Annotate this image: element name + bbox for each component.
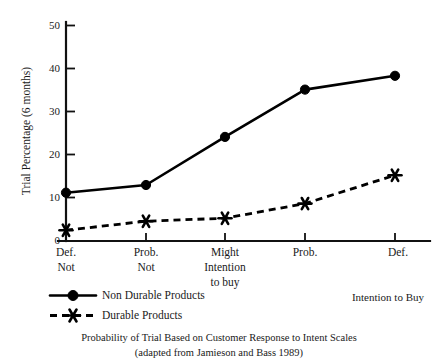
x-axis-ticks [66, 233, 395, 241]
y-tick-label-30: 30 [49, 105, 61, 117]
y-tick-label-50: 50 [49, 19, 61, 31]
caption-line-1: Probability of Trial Based on Customer R… [81, 332, 357, 343]
x-axis-title: Intention to Buy [352, 291, 425, 303]
y-tick-label-10: 10 [49, 191, 61, 203]
non-durable-line [66, 76, 395, 193]
y-axis-title: Trial Percentage (6 months) [20, 67, 33, 195]
series-durable-products [60, 170, 402, 236]
series-non-durable-products [61, 71, 399, 197]
non-durable-point-1 [141, 180, 150, 189]
chart-legend: Non Durable Products Durable Products [50, 289, 205, 322]
durable-point-2 [219, 213, 232, 224]
x-tick-label-4-line0: Def. [388, 246, 408, 258]
x-axis-tick-labels: Def. Not Prob. Not Might Intention to bu… [56, 246, 408, 289]
y-tick-label-20: 20 [49, 148, 61, 160]
non-durable-point-4 [390, 71, 399, 80]
legend-item-durable[interactable]: Durable Products [50, 309, 183, 322]
legend-marker-circle-icon [68, 291, 78, 301]
chart-figure: 50 40 30 20 10 0 Trial Percentage (6 mon… [0, 0, 437, 364]
x-tick-label-1-line1: Not [137, 261, 155, 273]
figure-caption: Probability of Trial Based on Customer R… [81, 332, 357, 359]
non-durable-point-0 [61, 188, 70, 197]
y-axis-group: 50 40 30 20 10 0 Trial Percentage (6 mon… [20, 19, 75, 246]
legend-label-durable: Durable Products [102, 309, 183, 321]
durable-point-4 [389, 170, 402, 181]
durable-line [66, 175, 395, 230]
x-tick-label-0-line1: Not [57, 261, 75, 273]
durable-point-1 [140, 216, 153, 227]
x-tick-label-3-line0: Prob. [293, 246, 318, 258]
caption-line-2: (adapted from Jamieson and Bass 1989) [135, 347, 304, 359]
x-tick-label-2-line0: Might [211, 246, 240, 259]
x-tick-label-2-line2: to buy [210, 276, 239, 289]
line-chart-svg: 50 40 30 20 10 0 Trial Percentage (6 mon… [0, 0, 437, 364]
non-durable-point-2 [220, 132, 229, 141]
y-tick-label-0: 0 [55, 234, 61, 246]
durable-point-3 [299, 198, 312, 209]
x-tick-label-2-line1: Intention [204, 261, 246, 273]
x-tick-label-1-line0: Prob. [134, 246, 159, 258]
legend-label-non-durable: Non Durable Products [102, 289, 205, 301]
legend-item-non-durable[interactable]: Non Durable Products [50, 289, 205, 301]
non-durable-point-3 [300, 85, 309, 94]
x-tick-label-0-line0: Def. [56, 246, 76, 258]
y-axis-tick-labels: 50 40 30 20 10 0 [49, 19, 61, 246]
legend-marker-star-icon [66, 310, 80, 322]
y-tick-label-40: 40 [49, 62, 61, 74]
y-axis-ticks [66, 26, 75, 198]
